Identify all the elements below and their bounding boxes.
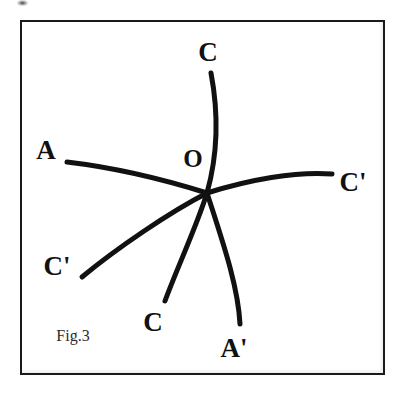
figure-root: C A O C' C' C A' Fig.3: [0, 0, 408, 395]
label-o-center: O: [183, 146, 202, 171]
label-c-bottom: C: [143, 309, 163, 336]
label-c-top: C: [198, 39, 218, 66]
label-a-prime-bottom: A': [221, 335, 248, 362]
curve-c-to-a-prime: [207, 73, 240, 324]
label-c-prime-left: C': [44, 253, 71, 280]
label-a-left: A: [36, 137, 56, 164]
figure-caption: Fig.3: [56, 328, 89, 344]
label-c-prime-right: C': [340, 169, 367, 196]
curve-c-prime-left-to-c-bottom: [82, 193, 207, 301]
